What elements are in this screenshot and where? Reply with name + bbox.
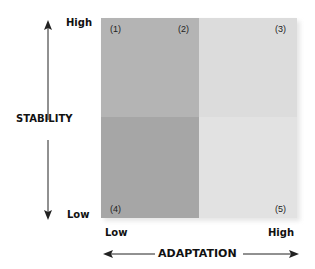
marker-2: (2) xyxy=(178,24,189,34)
marker-4: (4) xyxy=(110,204,121,214)
x-low-label: Low xyxy=(105,227,127,238)
quadrant-bottom-left xyxy=(101,117,199,218)
y-high-label: High xyxy=(66,17,92,28)
adaptation-axis-title: ADAPTATION xyxy=(158,247,237,260)
quadrant-grid: (1) (2) (3) (4) (5) xyxy=(101,18,297,218)
marker-1: (1) xyxy=(110,24,121,34)
y-low-label: Low xyxy=(67,209,89,220)
marker-5: (5) xyxy=(275,204,286,214)
stability-axis-title: STABILITY xyxy=(16,113,72,124)
marker-3: (3) xyxy=(275,24,286,34)
quadrant-bottom-right xyxy=(199,117,297,218)
x-high-label: High xyxy=(268,227,294,238)
